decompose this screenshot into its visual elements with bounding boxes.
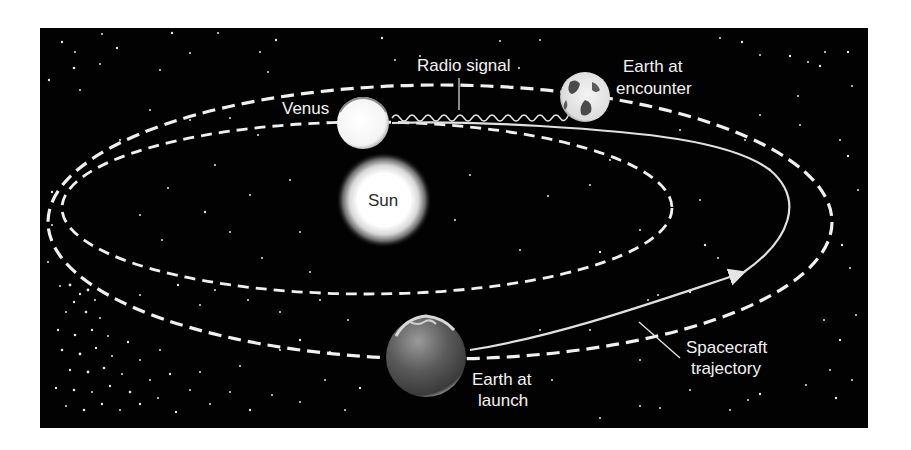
earth-at-encounter bbox=[560, 72, 610, 122]
venus-mission-diagram: Radio signal Venus Sun Earth at encounte… bbox=[0, 0, 911, 450]
label-venus: Venus bbox=[282, 99, 329, 118]
label-spacecraft-1: Spacecraft bbox=[686, 338, 768, 357]
label-spacecraft-2: trajectory bbox=[691, 359, 761, 378]
label-earth-encounter-1: Earth at bbox=[623, 57, 683, 76]
label-earth-launch-1: Earth at bbox=[472, 370, 532, 389]
label-earth-encounter-2: encounter bbox=[616, 79, 692, 98]
label-earth-launch-2: launch bbox=[478, 391, 528, 410]
label-sun: Sun bbox=[368, 191, 398, 210]
venus-planet bbox=[337, 97, 389, 149]
label-radio-signal: Radio signal bbox=[417, 56, 511, 75]
